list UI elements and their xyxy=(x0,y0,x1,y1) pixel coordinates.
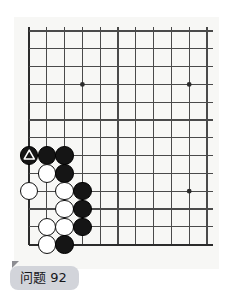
go-problem-figure: 问题 92 xyxy=(0,0,244,308)
problem-label: 问题 92 xyxy=(10,266,79,290)
caption-corner-icon xyxy=(12,261,19,268)
triangle-marker-icon xyxy=(20,146,39,165)
caption: 问题 92 xyxy=(10,266,79,290)
mark-layer xyxy=(14,17,219,269)
go-board[interactable] xyxy=(14,17,219,269)
